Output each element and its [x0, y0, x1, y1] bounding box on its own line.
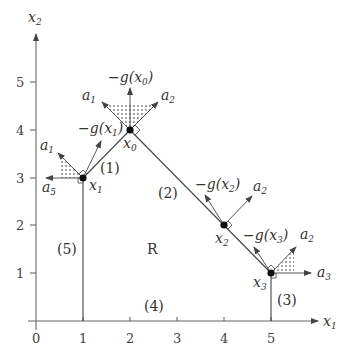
label-a1-x1: a1	[40, 137, 54, 155]
neg-grad-x2-arrow	[205, 195, 224, 225]
neg-grad-x3-arrow	[254, 247, 271, 273]
x-tick-3: 3	[173, 331, 181, 346]
label-neg-grad-x0: −g(x0)	[108, 69, 153, 87]
constraint-label-4: (4)	[144, 298, 164, 314]
x-tick-4: 4	[220, 331, 228, 346]
label-a2-x0: a2	[161, 87, 175, 105]
label-x1: x1	[89, 177, 103, 195]
x-tick-1: 1	[79, 331, 87, 346]
x-tick-2: 2	[126, 331, 134, 346]
vectors-x2	[205, 195, 252, 229]
constraint-edges	[83, 130, 271, 321]
feasible-region-diagram: 0 1 2 3 4 5 1 2 3 4 5 x1 x2	[0, 0, 353, 360]
constraint-label-2: (2)	[158, 185, 178, 201]
x-tick-5: 5	[267, 331, 275, 346]
y-tick-1: 1	[16, 266, 24, 281]
constraint-label-1: (1)	[100, 160, 120, 176]
y-tick-5: 5	[16, 75, 24, 90]
y-ticks	[30, 82, 36, 273]
label-x3: x3	[253, 274, 267, 292]
region-label: R	[147, 241, 158, 257]
label-a5-x1: a5	[42, 179, 56, 197]
label-x0: x0	[123, 135, 137, 153]
points	[79, 126, 274, 276]
label-neg-grad-x2: −g(x2)	[195, 176, 240, 194]
point-x3	[267, 269, 274, 276]
constraint-label-5: (5)	[57, 241, 77, 257]
point-x1	[79, 174, 86, 181]
label-neg-grad-x1: −g(x1)	[78, 120, 123, 138]
label-a2-x2: a2	[253, 178, 267, 196]
label-neg-grad-x3: −g(x3)	[243, 227, 288, 245]
label-x2: x2	[215, 230, 229, 248]
x-ticks	[83, 317, 271, 321]
x-tick-0: 0	[32, 331, 40, 346]
point-x0	[126, 126, 133, 133]
constraint-label-3: (3)	[277, 292, 297, 308]
y-tick-4: 4	[16, 123, 24, 138]
label-a2-x3: a2	[300, 226, 314, 244]
x2-axis-label: x2	[28, 9, 42, 27]
x1-axis-label: x1	[323, 313, 337, 331]
y-tick-3: 3	[16, 171, 24, 186]
label-a1-x0: a1	[82, 87, 96, 105]
y-tick-2: 2	[16, 218, 24, 233]
point-x2	[220, 221, 227, 228]
label-a3-x3: a3	[317, 264, 331, 282]
